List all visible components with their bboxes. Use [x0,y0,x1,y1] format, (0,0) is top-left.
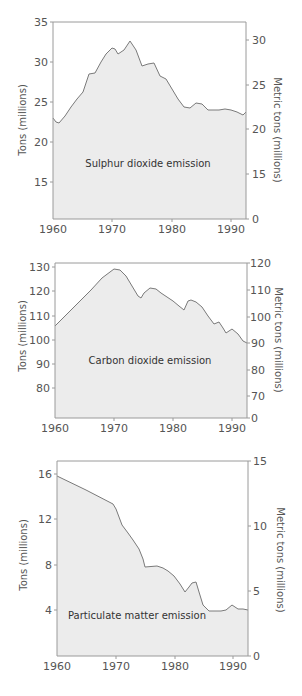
y-right-tick-label: 100 [250,311,271,324]
emissions-charts: 35 30 25 20 15 30 25 20 15 0 1960 1970 1… [0,0,302,696]
chart-carbon-dioxide: 130 120 110 100 90 80 120 110 100 90 80 … [17,257,284,435]
series-label: Carbon dioxide emission [89,355,212,366]
y-tick-label: 8 [45,559,52,572]
y-tick-label: 80 [36,382,50,395]
x-tick-label: 1960 [39,223,67,236]
y-right-tick-label: 0 [252,213,259,226]
series-label: Sulphur dioxide emission [85,158,210,169]
y-right-axis-title: Metric tons (millions) [275,507,286,612]
area-fill [53,41,246,219]
y-axis-title: Tons (millions) [17,84,28,157]
x-tick-label: 1970 [100,422,128,435]
x-tick-label: 1970 [102,660,130,673]
y-right-tick-label: 70 [251,390,265,403]
chart-sulphur-dioxide: 35 30 25 20 15 30 25 20 15 0 1960 1970 1… [17,16,283,236]
x-tick-label: 1980 [159,422,187,435]
y-tick-label: 4 [45,604,52,617]
y-tick-label: 90 [36,358,50,371]
x-tick-label: 1960 [43,660,71,673]
y-tick-label: 110 [29,310,50,323]
y-right-tick-label: 15 [253,455,267,468]
area-fill [55,269,247,418]
y-right-tick-label: 25 [252,79,266,92]
series-label: Particulate matter emission [68,610,206,621]
chart-particulate-matter: 16 12 8 4 15 10 5 0 1960 1970 1980 1990 … [18,455,286,673]
y-tick-label: 16 [38,468,52,481]
y-tick-label: 25 [34,96,48,109]
y-right-tick-label: 120 [250,257,271,270]
y-right-axis-title: Metric tons (millions) [272,77,283,182]
y-tick-label: 20 [34,136,48,149]
y-axis-title: Tons (millions) [17,300,28,373]
y-tick-label: 100 [29,334,50,347]
y-tick-label: 15 [34,176,48,189]
x-tick-label: 1970 [98,223,126,236]
y-right-tick-label: 80 [251,364,265,377]
y-right-tick-label: 30 [252,34,266,47]
x-tick-label: 1990 [217,223,245,236]
y-tick-label: 130 [29,261,50,274]
x-tick-label: 1960 [41,422,69,435]
x-tick-label: 1990 [218,422,246,435]
y-right-tick-label: 15 [252,168,266,181]
y-right-tick-label: 110 [250,284,271,297]
x-tick-label: 1980 [158,223,186,236]
y-right-tick-label: 10 [253,520,267,533]
y-right-tick-label: 0 [253,650,260,663]
y-tick-label: 30 [34,56,48,69]
y-right-tick-label: 0 [251,412,258,425]
y-tick-label: 35 [34,16,48,29]
y-tick-label: 120 [29,285,50,298]
y-axis-title: Tons (millions) [18,519,29,592]
y-tick-label: 12 [38,513,52,526]
y-right-tick-label: 20 [252,123,266,136]
x-tick-label: 1980 [161,660,189,673]
y-right-tick-label: 90 [251,337,265,350]
x-tick-label: 1990 [219,660,247,673]
y-right-tick-label: 5 [253,585,260,598]
y-right-axis-title: Metric tons (millions) [273,287,284,392]
